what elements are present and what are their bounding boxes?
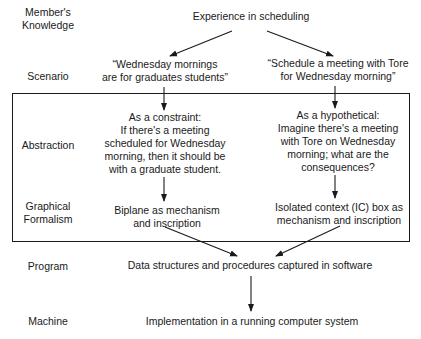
arrow-formalism-right-to-program	[276, 226, 340, 256]
arrows-layer	[0, 0, 421, 339]
arrow-formalism-left-to-program	[165, 227, 237, 256]
arrow-experience-to-scenario-right	[267, 31, 333, 56]
arrow-experience-to-scenario-left	[170, 31, 232, 56]
